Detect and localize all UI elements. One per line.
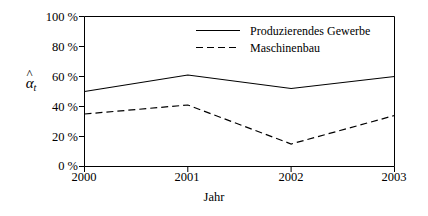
series-line-maschinenbau [85, 105, 395, 144]
series-line-produzierendes-gewerbe [85, 75, 395, 92]
chart-canvas [0, 0, 428, 216]
y-tick-marks [79, 17, 85, 167]
axis-frame [85, 17, 395, 167]
x-tick-marks [85, 167, 395, 173]
chart-figure: αt 100 % 80 % 60 % 40 % 20 % 0 % 2000 20… [0, 0, 428, 216]
